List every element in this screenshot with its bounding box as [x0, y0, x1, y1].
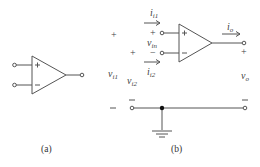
vi2-plus: +: [130, 48, 136, 58]
label-vo: vo: [241, 71, 249, 83]
terminal-gnd-left: [130, 106, 134, 110]
opamp-b-triangle: [179, 24, 212, 62]
opamp-a: [13, 56, 84, 94]
junction-node: [160, 106, 164, 110]
opamp-a-triangle: [32, 56, 66, 94]
terminal-b-plus: [160, 31, 164, 35]
label-vi2: vi2: [127, 76, 137, 88]
terminal-a-plus: [13, 63, 17, 67]
caption-a: (a): [41, 145, 52, 155]
terminal-b-minus: [160, 51, 164, 55]
label-io: io: [227, 22, 233, 34]
terminal-b-out: [242, 41, 246, 45]
label-ii1: ii1: [150, 8, 158, 20]
label-vi1: vi1: [108, 69, 118, 81]
label-ii2: ii2: [147, 67, 155, 79]
terminal-gnd-right: [243, 106, 247, 110]
vi1-plus: +: [111, 30, 117, 40]
vin-minus: −: [150, 48, 156, 58]
terminal-a-out: [80, 73, 84, 77]
vo-plus: +: [241, 47, 247, 57]
terminal-a-minus: [13, 83, 17, 87]
caption-b: (b): [171, 145, 182, 155]
